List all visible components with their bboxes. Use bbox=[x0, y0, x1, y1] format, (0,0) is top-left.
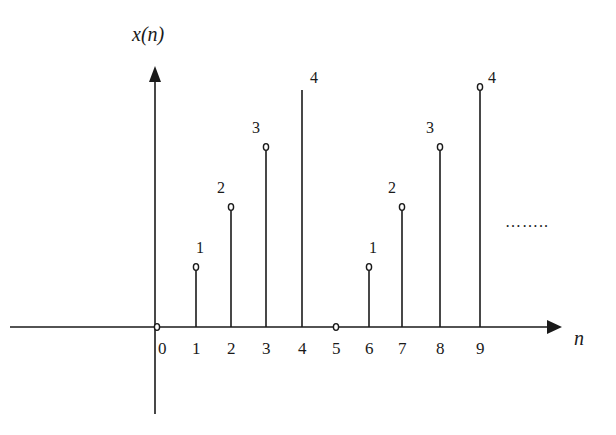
stem-marker bbox=[193, 264, 198, 271]
stem-marker bbox=[228, 204, 233, 211]
data-label: 3 bbox=[426, 119, 434, 136]
x-tick-label: 6 bbox=[365, 339, 374, 358]
continuation-ellipsis: …….. bbox=[505, 213, 549, 230]
x-axis-arrow-icon bbox=[547, 320, 562, 334]
stem-plot: x(n) n …….. 011223344516273849 bbox=[0, 0, 616, 435]
data-label: 3 bbox=[252, 119, 260, 136]
x-tick-label: 9 bbox=[476, 339, 485, 358]
x-tick-label: 4 bbox=[298, 339, 307, 358]
x-tick-label: 7 bbox=[398, 339, 407, 358]
data-label: 2 bbox=[388, 179, 396, 196]
stem-marker bbox=[154, 324, 159, 331]
x-tick-label: 2 bbox=[227, 339, 236, 358]
data-label: 1 bbox=[369, 239, 377, 256]
stem-marker bbox=[477, 84, 482, 91]
x-tick-label: 0 bbox=[158, 339, 167, 358]
x-tick-label: 8 bbox=[436, 339, 445, 358]
x-tick-label: 3 bbox=[262, 339, 271, 358]
stem-marker bbox=[263, 144, 268, 151]
y-axis-title: x(n) bbox=[131, 23, 165, 46]
stem-marker bbox=[333, 324, 338, 331]
data-label: 1 bbox=[196, 239, 204, 256]
x-tick-label: 1 bbox=[192, 339, 201, 358]
stem-marker bbox=[399, 204, 404, 211]
x-tick-label: 5 bbox=[332, 339, 341, 358]
data-label: 4 bbox=[488, 69, 496, 86]
y-axis-arrow-icon bbox=[149, 66, 161, 82]
data-label: 2 bbox=[217, 179, 225, 196]
x-axis-title: n bbox=[574, 327, 584, 349]
stem-marker bbox=[437, 144, 442, 151]
stem-marker bbox=[366, 264, 371, 271]
data-label: 4 bbox=[310, 69, 318, 86]
